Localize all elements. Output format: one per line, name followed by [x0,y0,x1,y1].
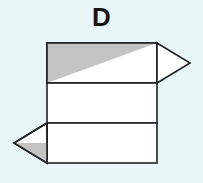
right-triangle-face [157,43,190,83]
bottom-face [47,123,157,163]
prism-net-diagram [0,0,203,183]
middle-face [47,83,157,123]
